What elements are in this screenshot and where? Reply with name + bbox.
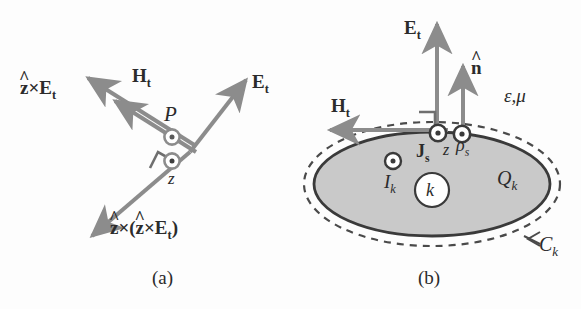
C-subscript: k bbox=[552, 244, 558, 259]
J-base: J bbox=[416, 141, 425, 161]
poynting-symbol-dot bbox=[170, 135, 175, 140]
Q-subscript: k bbox=[511, 178, 517, 193]
label-n-hat: ^n bbox=[471, 58, 482, 77]
label-z-axis-a: z bbox=[168, 170, 175, 187]
label-zhat-cross-Et: ^z×Et bbox=[20, 78, 56, 101]
E-base-b: E bbox=[404, 17, 417, 38]
label-contour-Ck: Ck bbox=[539, 234, 558, 258]
E-base-a1: E bbox=[39, 77, 52, 98]
figure-container: ^z×Et Ht Et ^z×(^z×Et) P z (a) Et ^n Ht … bbox=[0, 0, 581, 309]
label-current-Ik: Ik bbox=[384, 172, 396, 195]
E-subscript-a1: t bbox=[52, 88, 56, 102]
times-symbol-a2: × bbox=[118, 217, 129, 238]
caption-panel-a: (a) bbox=[152, 268, 173, 287]
label-zhat-cross-zhat-cross-Et: ^z×(^z×Et) bbox=[110, 218, 178, 241]
label-interior-k: k bbox=[426, 181, 434, 199]
Q-base: Q bbox=[497, 167, 511, 189]
rho-subscript: s bbox=[465, 146, 470, 159]
label-surface-charge-rhos: ρs bbox=[456, 136, 469, 158]
rho-base: ρ bbox=[456, 135, 465, 155]
times-symbol-a3: × bbox=[144, 217, 155, 238]
label-Ht-b: Ht bbox=[331, 96, 350, 119]
vector-Et bbox=[190, 80, 246, 152]
zhat-hat-accent-a: ^ bbox=[19, 69, 29, 87]
zhat-hat-accent-b1: ^ bbox=[109, 209, 119, 227]
H-base-a: H bbox=[132, 65, 147, 86]
label-Et-a: Et bbox=[252, 72, 269, 95]
vector-Ht bbox=[115, 101, 196, 152]
label-surface-current-Js: Js bbox=[416, 142, 430, 164]
E-subscript-a2: t bbox=[265, 82, 269, 96]
E-subscript-b: t bbox=[417, 28, 421, 42]
E-base-a2: E bbox=[252, 71, 265, 92]
E-base-a3: E bbox=[155, 217, 168, 238]
paren-close-a: ) bbox=[172, 217, 178, 238]
J-subscript: s bbox=[425, 152, 430, 165]
current-Ik-symbol-dot bbox=[391, 159, 396, 164]
label-poynting-P: P bbox=[164, 104, 177, 125]
C-base: C bbox=[539, 233, 552, 255]
H-subscript-a: t bbox=[147, 76, 151, 90]
H-subscript-b: t bbox=[346, 106, 350, 120]
zhat-hat-accent-b2: ^ bbox=[135, 209, 145, 227]
caption-panel-b: (b) bbox=[418, 268, 440, 287]
times-symbol-a1: × bbox=[28, 77, 39, 98]
label-medium-eps-mu: ε,μ bbox=[504, 86, 526, 105]
label-Ht-a: Ht bbox=[132, 66, 151, 89]
figure-canvas bbox=[0, 0, 581, 309]
label-z-axis-b: z bbox=[443, 142, 449, 158]
nhat-hat-accent: ^ bbox=[471, 49, 481, 67]
label-Et-b: Et bbox=[404, 18, 421, 41]
surface-current-Js-dot bbox=[435, 130, 440, 135]
panel-b-vectors bbox=[330, 24, 470, 142]
I-subscript: k bbox=[390, 182, 395, 196]
H-base-b: H bbox=[331, 95, 346, 116]
label-charge-Qk: Qk bbox=[497, 168, 517, 192]
z-axis-symbol-dot-a bbox=[170, 159, 175, 164]
